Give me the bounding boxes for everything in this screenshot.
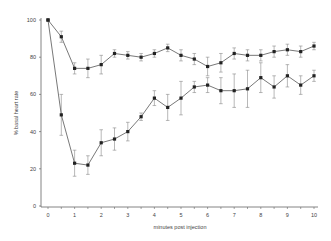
data-point-marker xyxy=(233,52,236,55)
data-point-marker xyxy=(113,137,116,140)
data-point-marker xyxy=(286,48,289,51)
data-point-marker xyxy=(219,89,222,92)
y-axis-label: % basal heart rate xyxy=(13,91,19,136)
data-point-marker xyxy=(126,54,129,57)
data-point-marker xyxy=(86,163,89,166)
data-point-marker xyxy=(219,61,222,64)
x-tick-label: 10 xyxy=(311,212,317,218)
data-point-marker xyxy=(46,18,49,21)
data-point-marker xyxy=(286,74,289,77)
data-point-marker xyxy=(179,97,182,100)
data-point-marker xyxy=(193,85,196,88)
data-point-marker xyxy=(273,85,276,88)
y-ticks: 020406080100 xyxy=(27,17,41,209)
data-point-marker xyxy=(246,54,249,57)
y-tick-label: 80 xyxy=(30,54,36,60)
x-tick-label: 4 xyxy=(153,212,156,218)
y-tick-label: 60 xyxy=(30,91,36,97)
data-point-marker xyxy=(206,84,209,87)
data-point-marker xyxy=(259,54,262,57)
y-tick-label: 20 xyxy=(30,166,36,172)
x-tick-label: 1 xyxy=(73,212,76,218)
data-point-marker xyxy=(233,89,236,92)
data-point-marker xyxy=(73,67,76,70)
data-point-marker xyxy=(73,162,76,165)
series-lower xyxy=(46,18,315,176)
data-point-marker xyxy=(153,52,156,55)
data-point-marker xyxy=(60,35,63,38)
y-tick-label: 0 xyxy=(33,203,36,209)
x-tick-label: 3 xyxy=(126,212,129,218)
x-tick-label: 2 xyxy=(100,212,103,218)
data-point-marker xyxy=(299,50,302,53)
data-point-marker xyxy=(140,115,143,118)
data-point-marker xyxy=(193,57,196,60)
data-point-marker xyxy=(100,141,103,144)
data-point-marker xyxy=(179,54,182,57)
series-upper xyxy=(46,18,315,77)
data-point-marker xyxy=(100,63,103,66)
x-tick-label: 8 xyxy=(259,212,262,218)
plot-area xyxy=(46,18,315,176)
x-tick-label: 5 xyxy=(179,212,182,218)
data-point-marker xyxy=(113,52,116,55)
data-point-marker xyxy=(166,106,169,109)
data-point-marker xyxy=(140,56,143,59)
x-tick-label: 7 xyxy=(233,212,236,218)
x-ticks: 012345678910 xyxy=(46,207,317,218)
x-tick-label: 9 xyxy=(286,212,289,218)
data-point-marker xyxy=(299,84,302,87)
data-point-marker xyxy=(166,46,169,49)
data-point-marker xyxy=(206,65,209,68)
data-point-marker xyxy=(60,113,63,116)
x-tick-label: 0 xyxy=(46,212,49,218)
data-point-marker xyxy=(312,44,315,47)
data-point-marker xyxy=(126,130,129,133)
x-axis-label: minutes post injection xyxy=(154,224,207,230)
data-point-marker xyxy=(86,67,89,70)
data-point-marker xyxy=(259,76,262,79)
data-point-marker xyxy=(153,97,156,100)
data-point-marker xyxy=(246,87,249,90)
y-tick-label: 40 xyxy=(30,129,36,135)
data-point-marker xyxy=(312,74,315,77)
y-tick-label: 100 xyxy=(27,17,36,23)
heart-rate-chart: 020406080100 012345678910 minutes post i… xyxy=(0,0,331,241)
x-tick-label: 6 xyxy=(206,212,209,218)
data-point-marker xyxy=(273,50,276,53)
